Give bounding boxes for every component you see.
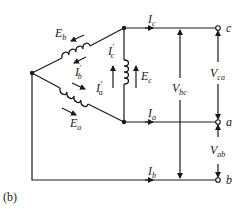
label-eb: Eb: [54, 26, 66, 42]
label-ib-prime: I′b: [74, 64, 82, 81]
arrow-eb-icon: [71, 35, 84, 41]
terminal-label-a: a: [226, 115, 232, 129]
terminal-c: [216, 26, 221, 31]
arrow-ea-icon: [62, 108, 76, 115]
label-ea: Ea: [69, 116, 81, 132]
arrow-ib-prime-icon: [74, 57, 86, 63]
label-ic: Ic: [147, 12, 156, 28]
label-ib: Ib: [147, 164, 156, 180]
arrow-ia-prime-icon: [72, 83, 85, 89]
terminal-b: [216, 178, 221, 183]
label-ec: Ec: [140, 69, 152, 85]
label-vbc: Vbc: [172, 81, 187, 97]
label-vab: Vab: [210, 143, 225, 159]
winding-c: [124, 28, 129, 122]
figure-caption: (b): [3, 190, 17, 204]
label-ia-prime: I′a: [95, 80, 103, 97]
label-ia: Ia: [147, 106, 156, 122]
terminal-label-c: c: [226, 21, 232, 35]
terminal-label-b: b: [226, 173, 232, 187]
label-ic-prime: I′c: [107, 43, 115, 60]
terminal-a: [216, 120, 221, 125]
label-vca: Vca: [210, 66, 225, 82]
delta-circuit-diagram: Eb I′b I′a Ea I′c Ec Ic Ia Ib c a b Vbc …: [0, 0, 247, 209]
